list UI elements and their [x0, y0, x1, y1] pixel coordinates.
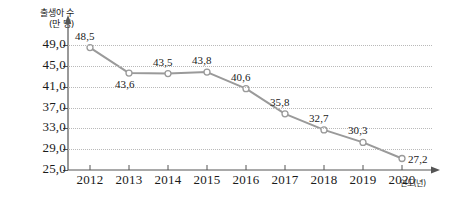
data-point-marker: [399, 156, 405, 162]
data-point-marker: [204, 69, 210, 75]
data-point-label: 48,5: [75, 30, 95, 42]
data-point-label: 30,3: [348, 124, 368, 136]
gridline: [68, 108, 432, 109]
data-point-label: 32,7: [309, 112, 329, 124]
y-axis-arrow-icon: [65, 15, 72, 24]
data-point-label: 35,8: [270, 96, 290, 108]
x-axis-arrow-icon: [431, 167, 440, 174]
gridline: [68, 128, 432, 129]
data-point-marker: [360, 139, 366, 145]
data-point-marker: [126, 70, 132, 76]
gridline: [68, 149, 432, 150]
series-line: [90, 48, 402, 159]
y-tick-label: 49,0: [20, 36, 66, 52]
plot-area: 25,029,033,037,041,045,049,0201220132014…: [0, 0, 454, 203]
data-point-label: 43,6: [115, 78, 135, 90]
y-tick-label: 41,0: [20, 78, 66, 94]
y-tick-label: 33,0: [20, 119, 66, 135]
y-tick-label: 45,0: [20, 57, 66, 73]
data-point-marker: [165, 71, 171, 77]
data-point-label: 27,2: [408, 153, 428, 165]
y-tick-label: 29,0: [20, 140, 66, 156]
y-tick-label: 25,0: [20, 161, 66, 177]
gridline: [68, 66, 432, 67]
gridline: [68, 45, 432, 46]
y-tick-label: 37,0: [20, 99, 66, 115]
data-point-label: 43,5: [153, 56, 173, 68]
data-point-label: 43,8: [192, 54, 212, 66]
data-point-marker: [282, 111, 288, 117]
birth-count-line-chart: 출생아 수 (만 명) 연도(년) 25,029,033,037,041,045…: [0, 0, 454, 203]
data-point-label: 40,6: [231, 71, 251, 83]
x-tick-label: 2020: [379, 172, 425, 188]
